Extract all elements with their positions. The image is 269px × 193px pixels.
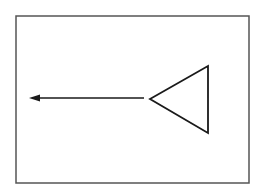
- triangle-shape: [150, 66, 208, 133]
- left-arrow: [29, 95, 144, 102]
- frame-rectangle: [16, 16, 249, 183]
- diagram-canvas: [0, 0, 269, 193]
- arrowhead-icon: [29, 95, 40, 102]
